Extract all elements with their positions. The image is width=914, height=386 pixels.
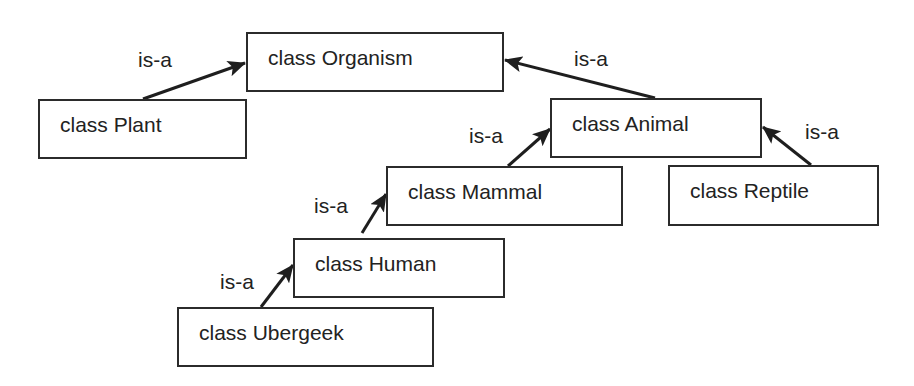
arrow-ubergeek-to-human <box>261 265 293 307</box>
class-box-ubergeek: class Ubergeek <box>177 307 434 367</box>
class-label-ubergeek: class Ubergeek <box>199 321 344 345</box>
class-box-mammal: class Mammal <box>386 166 623 226</box>
isa-label-mammal-animal: is-a <box>469 124 503 148</box>
class-label-human: class Human <box>315 252 436 276</box>
isa-label-animal-organism: is-a <box>574 47 608 71</box>
class-box-reptile: class Reptile <box>668 165 879 226</box>
class-box-animal: class Animal <box>550 98 762 158</box>
class-label-reptile: class Reptile <box>690 179 809 203</box>
class-label-organism: class Organism <box>268 46 413 70</box>
isa-label-human-mammal: is-a <box>314 194 348 218</box>
class-label-animal: class Animal <box>572 112 689 136</box>
class-label-mammal: class Mammal <box>408 180 542 204</box>
class-box-organism: class Organism <box>246 32 504 92</box>
class-box-human: class Human <box>293 238 505 298</box>
isa-label-reptile-animal: is-a <box>805 120 839 144</box>
arrow-reptile-to-animal <box>763 127 811 165</box>
isa-label-plant-organism: is-a <box>138 48 172 72</box>
arrow-human-to-mammal <box>362 194 386 233</box>
class-label-plant: class Plant <box>60 113 162 137</box>
isa-label-ubergeek-human: is-a <box>220 270 254 294</box>
arrow-mammal-to-animal <box>508 129 550 166</box>
class-hierarchy-diagram: class Organism class Plant class Animal … <box>0 0 914 386</box>
class-box-plant: class Plant <box>38 99 247 159</box>
